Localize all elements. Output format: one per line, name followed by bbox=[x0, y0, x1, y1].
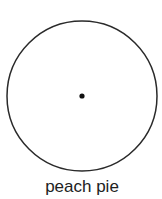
circle-diagram-svg bbox=[0, 0, 162, 199]
diagram-caption: peach pie bbox=[0, 178, 162, 196]
center-point-icon bbox=[79, 93, 84, 98]
circle-diagram: peach pie bbox=[0, 0, 162, 199]
